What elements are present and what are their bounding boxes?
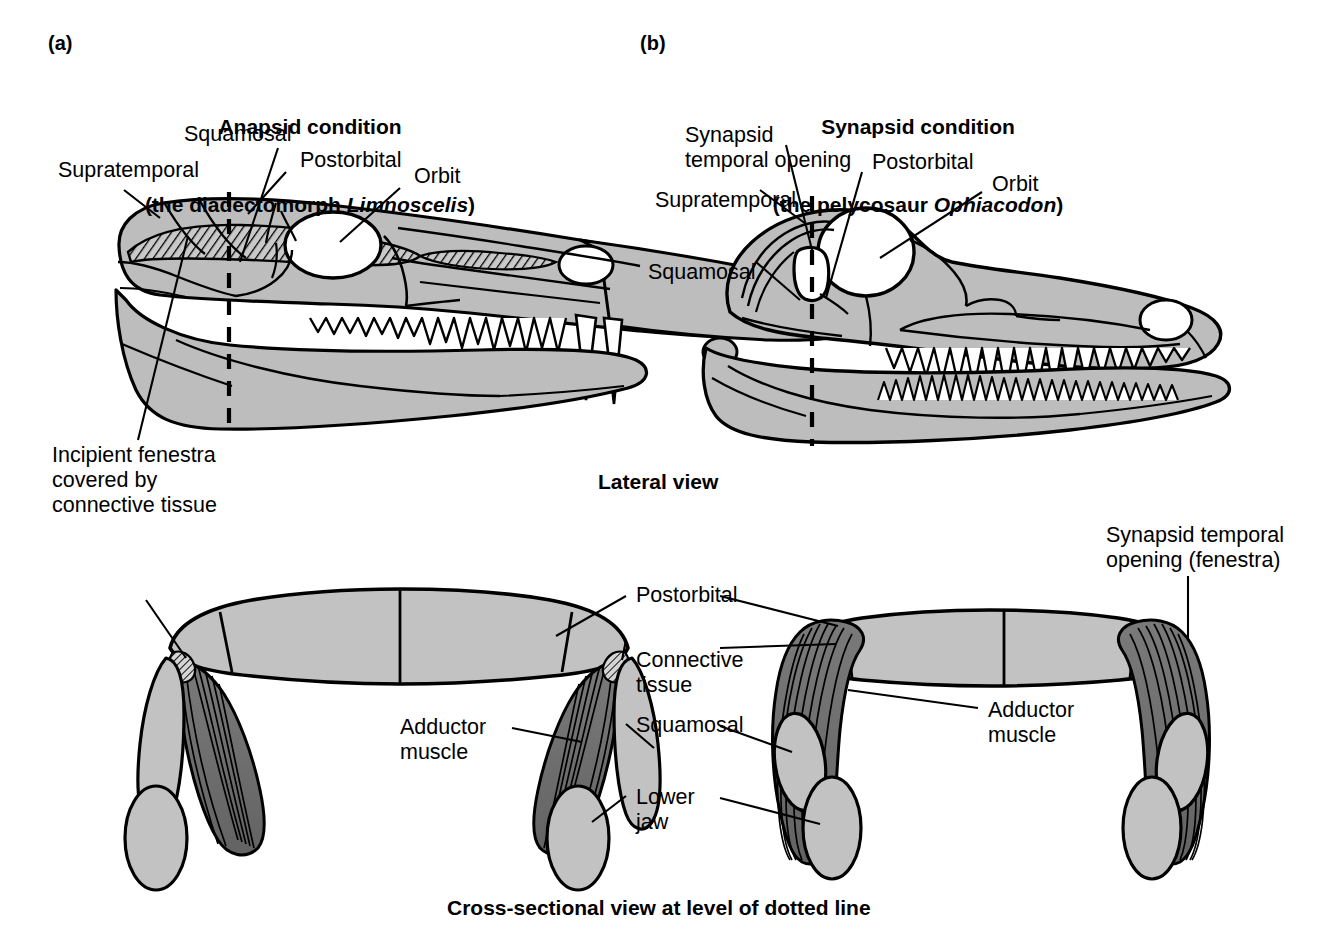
cross-a-muscle-left bbox=[180, 662, 264, 855]
leader-cross-adductor-right bbox=[848, 690, 978, 708]
cross-b-lower-jaw-left bbox=[803, 777, 861, 879]
label-squamosal-b: Squamosal bbox=[648, 260, 756, 285]
panel-b-title-line1: Synapsid condition bbox=[718, 114, 1118, 140]
label-supratemporal-b: Supratemporal bbox=[655, 188, 796, 213]
panel-b-title-suffix: ) bbox=[1056, 193, 1063, 216]
label-synapsid-fenestra-line1: Synapsid temporal bbox=[1106, 523, 1284, 548]
lateral-view-caption: Lateral view bbox=[598, 470, 718, 494]
label-supratemporal-a: Supratemporal bbox=[58, 158, 199, 183]
naris-a bbox=[559, 246, 613, 284]
panel-a-title-line1: Anapsid condition bbox=[120, 114, 500, 140]
label-cross-connective-line1: Connective bbox=[636, 648, 744, 673]
label-cross-adductor-right-line2: muscle bbox=[988, 723, 1056, 748]
leader-cross-postorbital-right bbox=[720, 596, 838, 626]
figure-canvas: (a) (b) Anapsid condition (the diadectom… bbox=[0, 0, 1318, 935]
naris-b bbox=[1140, 300, 1192, 340]
label-incipient-fenestra-line2: covered by bbox=[52, 468, 157, 493]
label-cross-adductor-right-line1: Adductor bbox=[988, 698, 1074, 723]
panel-a-title-prefix: (the diadectomorph bbox=[145, 193, 347, 216]
panel-tag-a: (a) bbox=[48, 32, 72, 55]
label-cross-adductor-line2: muscle bbox=[400, 740, 468, 765]
panel-a-title-genus: Limnoscelis bbox=[347, 193, 468, 216]
cross-a-lower-jaw-right bbox=[547, 786, 609, 890]
label-postorbital-b: Postorbital bbox=[872, 150, 974, 175]
panel-a-title-line2: (the diadectomorph Limnoscelis) bbox=[120, 192, 500, 218]
label-synapsid-fenestra-line2: opening (fenestra) bbox=[1106, 548, 1281, 573]
label-postorbital-a: Postorbital bbox=[300, 148, 402, 173]
label-cross-postorbital: Postorbital bbox=[636, 583, 738, 608]
label-cross-connective-line2: tissue bbox=[636, 673, 692, 698]
cross-a-lower-jaw-left bbox=[125, 786, 187, 890]
label-incipient-fenestra-line1: Incipient fenestra bbox=[52, 443, 216, 468]
label-orbit-b: Orbit bbox=[992, 172, 1039, 197]
label-cross-adductor-line1: Adductor bbox=[400, 715, 486, 740]
label-cross-squamosal: Squamosal bbox=[636, 713, 744, 738]
label-synapsid-opening-line1: Synapsid bbox=[685, 123, 773, 148]
cross-section-anapsid bbox=[125, 589, 660, 890]
panel-a-title-suffix: ) bbox=[468, 193, 475, 216]
panel-b-title-prefix: (the pelycosaur bbox=[773, 193, 934, 216]
label-cross-lower-line1: Lower bbox=[636, 785, 695, 810]
label-cross-lower-line2: jaw bbox=[636, 810, 668, 835]
cross-b-lower-jaw-right bbox=[1123, 777, 1181, 879]
label-incipient-fenestra-line3: connective tissue bbox=[52, 493, 217, 518]
label-orbit-a: Orbit bbox=[414, 164, 461, 189]
label-squamosal-a: Squamosal bbox=[184, 122, 292, 147]
cross-section-caption: Cross-sectional view at level of dotted … bbox=[447, 896, 871, 920]
panel-tag-b: (b) bbox=[640, 32, 666, 55]
upper-teeth-a bbox=[310, 318, 566, 352]
label-synapsid-opening-line2: temporal opening bbox=[685, 148, 851, 173]
